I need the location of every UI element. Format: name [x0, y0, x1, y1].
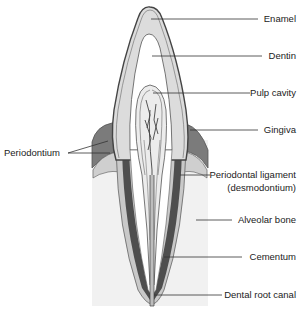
- label-desmodontium: (desmodontium): [227, 182, 296, 193]
- label-alveolar-bone: Alveolar bone: [238, 214, 296, 225]
- label-enamel: Enamel: [264, 13, 296, 24]
- label-periodontal-ligament: Periodontal ligament: [209, 169, 296, 180]
- label-gingiva: Gingiva: [264, 124, 296, 135]
- label-pulp-cavity: Pulp cavity: [250, 87, 296, 98]
- label-dentin: Dentin: [269, 50, 296, 61]
- label-periodontium: Periodontium: [4, 147, 60, 158]
- dental-root-canal: [150, 175, 154, 306]
- label-dental-root-canal: Dental root canal: [224, 289, 296, 300]
- label-cementum: Cementum: [250, 251, 296, 262]
